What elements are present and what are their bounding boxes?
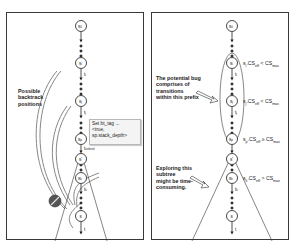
svg-text:sk: sk	[78, 176, 82, 181]
subtree-note: Exploring this subtree might be time- co…	[156, 165, 193, 191]
svg-text:sj: sj	[230, 99, 233, 104]
prefix-note: The potential bug comprises of transitio…	[156, 75, 201, 101]
svg-text:sp: sp	[78, 137, 82, 142]
svg-text:ti: ti	[84, 72, 86, 77]
svg-text:sj: sj	[79, 99, 82, 104]
svg-text:t: t	[235, 227, 237, 232]
condition-si: si.CSeff < CSmax	[243, 60, 279, 68]
svg-text:s0: s0	[229, 24, 233, 29]
condition-sk: sk.CSeff > CSmax	[243, 175, 280, 183]
svg-text:tk: tk	[235, 187, 238, 192]
svg-text:tj: tj	[235, 110, 237, 115]
svg-text:tj: tj	[84, 110, 86, 115]
svg-text:si: si	[230, 61, 233, 66]
svg-text:si: si	[79, 61, 82, 66]
condition-sj: sj.CSeff < CSmax	[243, 98, 279, 106]
backtrack-label: Possible backtrack positions	[18, 88, 43, 107]
left-panel: s0 si sj sp s' sk s ti tj tsetbvnd tk t …	[6, 12, 144, 240]
svg-text:tk: tk	[84, 187, 87, 192]
svg-text:t: t	[84, 227, 86, 232]
right-panel: s0 si sj sp s' sk s ti tj tk t si.CSeff …	[151, 12, 289, 240]
svg-text:s0: s0	[78, 24, 82, 29]
right-diagram-svg: s0 si sj sp s' sk s ti tj tk t	[152, 13, 290, 241]
svg-text:sp: sp	[229, 137, 233, 142]
svg-text:sk: sk	[229, 176, 233, 181]
no-entry-icon	[49, 195, 61, 207]
condition-sp: sp.CSeff ≥ CSmax	[243, 136, 280, 144]
svg-text:ti: ti	[235, 72, 237, 77]
svg-text:s': s'	[230, 157, 233, 162]
svg-text:s': s'	[79, 157, 82, 162]
svg-text:tsetbvnd: tsetbvnd	[84, 146, 95, 151]
set-bt-tag-tooltip: Set bt_tag ← <true, sp.stack_depth>	[89, 119, 141, 145]
